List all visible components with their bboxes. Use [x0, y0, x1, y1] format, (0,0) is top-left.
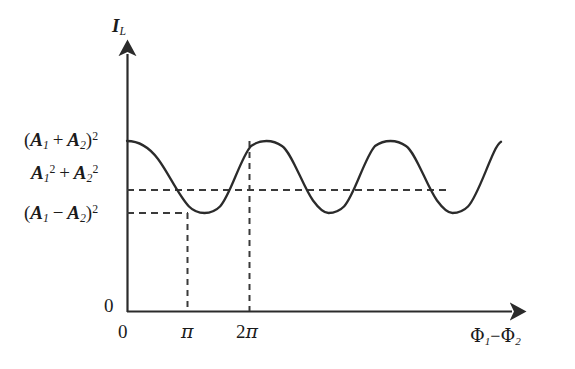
pi-symbol: π — [246, 320, 259, 342]
exponent: 2 — [92, 203, 98, 216]
phi-1-symbol: Φ — [470, 325, 485, 346]
amplitude-1-subscript: 1 — [43, 212, 49, 225]
amplitude-1: A — [30, 202, 43, 223]
interference-curve — [127, 141, 501, 213]
operator-minus: − — [490, 326, 500, 346]
interference-figure: IL (A1 + A2)2 A12 + A22 (A1 − A2)2 0 0 π… — [0, 0, 575, 369]
x-tick-label-zero: 0 — [118, 322, 128, 341]
x-axis-label: Φ1−Φ2 — [470, 327, 521, 347]
x-tick-label-two-pi: 2π — [236, 322, 258, 341]
two-pi-coefficient: 2 — [236, 321, 246, 342]
operator-plus: + — [59, 162, 70, 183]
amplitude-2: A — [74, 162, 87, 183]
y-axis-label-subscript: L — [119, 25, 126, 38]
y-axis-label: IL — [112, 16, 126, 38]
operator-plus: + — [53, 129, 64, 150]
amplitude-1-exponent: 2 — [50, 163, 56, 176]
amplitude-2: A — [67, 129, 80, 150]
x-tick-label-pi: π — [181, 322, 194, 341]
amplitude-2: A — [67, 202, 80, 223]
phi-2-symbol: Φ — [501, 325, 516, 346]
amplitude-2-exponent: 2 — [92, 163, 98, 176]
amplitude-1: A — [31, 162, 44, 183]
y-tick-label-mean-intensity: A12 + A22 — [31, 163, 98, 185]
y-tick-label-zero: 0 — [104, 296, 114, 315]
y-tick-label-max-intensity: (A1 + A2)2 — [24, 130, 98, 152]
amplitude-1-subscript: 1 — [43, 139, 49, 152]
exponent: 2 — [92, 130, 98, 143]
y-tick-label-min-intensity: (A1 − A2)2 — [24, 203, 98, 225]
amplitude-1: A — [30, 129, 43, 150]
phi-2-subscript: 2 — [515, 335, 521, 347]
operator-minus: − — [53, 202, 64, 223]
